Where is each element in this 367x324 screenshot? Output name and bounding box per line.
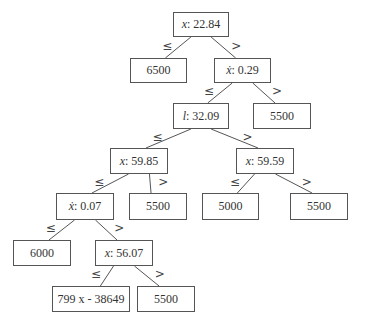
leaf-value: 6500 xyxy=(147,63,171,78)
leaf-node: 6500 xyxy=(130,58,187,83)
tree-edge xyxy=(149,174,151,193)
edge-label-le: ≤ xyxy=(94,176,104,188)
leaf-node: 5500 xyxy=(129,193,187,220)
edge-label-le: ≤ xyxy=(230,176,240,188)
leaf-node: 799 x - 38649 xyxy=(52,286,130,312)
split-threshold: 22.84 xyxy=(193,17,220,32)
edge-label-gt: > xyxy=(114,222,124,234)
split-threshold: 56.07 xyxy=(116,246,143,261)
split-node: x: 22.84 xyxy=(173,12,229,37)
edge-label-le: ≤ xyxy=(91,268,101,280)
split-node: l: 32.09 xyxy=(173,103,229,129)
edge-label-le: ≤ xyxy=(46,222,56,234)
leaf-value: 5500 xyxy=(154,292,178,307)
edge-label-le: ≤ xyxy=(162,40,172,52)
leaf-value: 6000 xyxy=(30,246,54,261)
edge-label-gt: > xyxy=(272,85,282,97)
split-node: x: 59.85 xyxy=(110,148,168,174)
edge-label-gt: > xyxy=(243,131,253,143)
split-threshold: 32.09 xyxy=(192,109,219,124)
split-threshold: 59.59 xyxy=(257,154,284,169)
leaf-node: 5500 xyxy=(253,103,311,129)
split-threshold: 0.29 xyxy=(238,63,259,78)
edge-label-gt: > xyxy=(158,176,168,188)
tree-edge xyxy=(100,266,113,286)
leaf-value: 5500 xyxy=(270,109,294,124)
edge-label-le: ≤ xyxy=(152,131,162,143)
leaf-node: 5000 xyxy=(202,193,259,220)
leaf-node: 5500 xyxy=(290,193,348,220)
leaf-value: 799 x - 38649 xyxy=(58,292,125,307)
split-threshold: 0.07 xyxy=(80,199,101,214)
leaf-value: 5000 xyxy=(219,199,243,214)
split-threshold: 59.85 xyxy=(131,154,158,169)
tree-edges xyxy=(0,0,367,324)
edge-label-gt: > xyxy=(302,176,312,188)
decision-tree: x: 22.846500ẋ: 0.29l: 32.095500x: 59.85x… xyxy=(0,0,367,324)
split-node: x: 59.59 xyxy=(236,148,294,174)
leaf-node: 5500 xyxy=(137,286,195,312)
leaf-value: 5500 xyxy=(146,199,170,214)
split-node: x: 56.07 xyxy=(95,240,153,266)
leaf-node: 6000 xyxy=(13,240,71,266)
leaf-value: 5500 xyxy=(307,199,331,214)
edge-label-le: ≤ xyxy=(204,85,214,97)
edge-label-gt: > xyxy=(155,268,165,280)
split-node: ẋ: 0.29 xyxy=(214,58,271,83)
split-node: ẋ: 0.07 xyxy=(56,193,114,220)
edge-label-gt: > xyxy=(231,40,241,52)
